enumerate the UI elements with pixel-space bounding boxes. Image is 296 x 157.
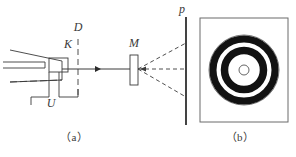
electron-gun-envelope <box>10 50 62 82</box>
caption-panel-a: （a） <box>52 128 96 144</box>
panel-b-ring-pattern <box>200 18 288 122</box>
plate-label: p <box>178 2 185 16</box>
target-label: M <box>128 36 140 50</box>
target-foil: M <box>128 36 140 85</box>
gun-outer-wall <box>10 50 62 82</box>
electron-beam <box>62 66 131 72</box>
voltage-supply-circuit: U <box>31 89 78 110</box>
diaphragm-label: D <box>73 20 83 34</box>
beam-direction-arrowhead <box>95 66 101 72</box>
target-rect <box>130 55 138 85</box>
figure-root: U K D M <box>0 0 296 157</box>
diffracted-ray-lower <box>138 69 186 97</box>
diffracted-rays <box>138 43 186 97</box>
cathode-filament-leads <box>3 62 45 68</box>
anode-electrode <box>49 58 68 97</box>
photographic-plate: p <box>178 2 186 125</box>
caption-panel-b: （b） <box>218 128 262 144</box>
diaphragm-assembly: D <box>73 20 83 97</box>
voltage-label: U <box>47 96 57 110</box>
panel-a-apparatus: U K D M <box>3 2 186 125</box>
cathode-label: K <box>63 37 73 51</box>
diffracted-ray-upper <box>138 43 186 69</box>
